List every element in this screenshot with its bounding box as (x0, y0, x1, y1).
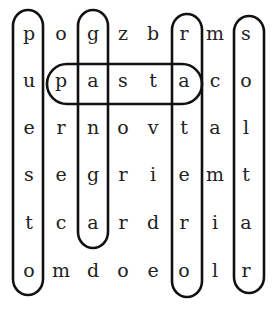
circled-words (0, 0, 279, 311)
loop-puesto (13, 10, 43, 295)
loop-ratero (172, 14, 202, 297)
loop-soltar (234, 16, 264, 293)
loop-pasta (47, 64, 202, 104)
word-search-puzzle: pogzbrmsupastacoernovtalsegriemttcardria… (0, 0, 279, 311)
loop-ganga (78, 10, 108, 248)
